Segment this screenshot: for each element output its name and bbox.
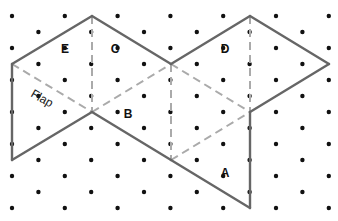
fold-line — [92, 64, 171, 112]
grid-dot — [10, 46, 14, 50]
grid-dot — [195, 94, 199, 98]
grid-dot — [300, 62, 304, 66]
grid-dot — [274, 142, 278, 146]
grid-dot — [195, 62, 199, 66]
face-label-c: C — [111, 42, 120, 56]
grid-dot — [221, 142, 225, 146]
grid-dot — [300, 94, 304, 98]
grid-dot — [89, 126, 93, 130]
grid-dot — [274, 174, 278, 178]
grid-dot — [327, 46, 331, 50]
fold-line — [171, 64, 250, 112]
grid-dot — [10, 206, 14, 210]
fold-line — [12, 64, 92, 112]
grid-dot — [115, 14, 119, 18]
grid-dot — [221, 78, 225, 82]
grid-dot — [115, 206, 119, 210]
net-diagram: ECDBA Flap — [0, 0, 338, 221]
grid-dot — [36, 62, 40, 66]
grid-dot — [115, 78, 119, 82]
grid-dot — [274, 46, 278, 50]
grid-dot — [195, 30, 199, 34]
grid-dot — [300, 190, 304, 194]
outline-edge — [250, 16, 329, 64]
outline-edge — [250, 64, 329, 112]
grid-dot — [115, 142, 119, 146]
grid-dot — [274, 78, 278, 82]
grid-dot — [274, 206, 278, 210]
grid-dot — [63, 14, 67, 18]
grid-dot — [10, 14, 14, 18]
outline-edge — [171, 16, 250, 64]
grid-dot — [168, 46, 172, 50]
grid-dot — [142, 126, 146, 130]
grid-dot — [168, 206, 172, 210]
grid-dot — [142, 158, 146, 162]
grid-dot — [327, 14, 331, 18]
face-label-a: A — [221, 166, 230, 180]
grid-dot — [274, 110, 278, 114]
flap-label: Flap — [29, 86, 56, 110]
grid-dot — [36, 158, 40, 162]
grid-dot — [195, 126, 199, 130]
grid-dot — [142, 62, 146, 66]
grid-dot — [115, 174, 119, 178]
grid-dot — [168, 14, 172, 18]
outline-edge — [12, 112, 92, 160]
grid-dot — [115, 110, 119, 114]
grid-dot — [63, 174, 67, 178]
grid-dot — [89, 190, 93, 194]
grid-dot — [327, 142, 331, 146]
grid-dot — [63, 110, 67, 114]
grid-dot — [195, 190, 199, 194]
grid-dot — [327, 174, 331, 178]
grid-dot — [300, 30, 304, 34]
grid-dot — [274, 14, 278, 18]
grid-dot — [10, 174, 14, 178]
grid-dot — [142, 94, 146, 98]
grid-dot — [327, 206, 331, 210]
fold-line — [171, 112, 250, 160]
grid-dot — [89, 158, 93, 162]
grid-dot — [36, 126, 40, 130]
grid-dot — [168, 174, 172, 178]
grid-dot — [36, 190, 40, 194]
grid-dot — [63, 78, 67, 82]
face-label-e: E — [61, 42, 69, 56]
outline-edge — [92, 16, 171, 64]
diagram-canvas: ECDBA Flap — [0, 0, 338, 221]
grid-dot — [63, 206, 67, 210]
grid-dot — [300, 158, 304, 162]
grid-dot — [300, 126, 304, 130]
grid-dot — [221, 14, 225, 18]
grid-dot — [221, 206, 225, 210]
grid-dot — [195, 158, 199, 162]
face-label-d: D — [221, 42, 230, 56]
grid-dot — [36, 30, 40, 34]
grid-dot — [221, 110, 225, 114]
dot-grid — [10, 14, 331, 210]
outline-edge — [12, 16, 92, 64]
outline-edge — [171, 160, 250, 208]
grid-dot — [142, 30, 146, 34]
grid-dot — [327, 78, 331, 82]
grid-dot — [63, 142, 67, 146]
grid-dot — [327, 110, 331, 114]
face-label-b: B — [124, 107, 133, 121]
grid-dot — [142, 190, 146, 194]
